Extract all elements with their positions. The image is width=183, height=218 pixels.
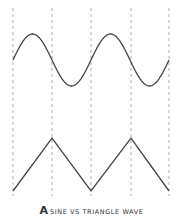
panel-letter: A: [39, 204, 48, 217]
wave-diagram: [0, 0, 183, 218]
figure: ASINE VS TRIANGLE WAVE: [0, 0, 183, 218]
figure-caption: ASINE VS TRIANGLE WAVE: [0, 199, 183, 218]
sine-wave: [13, 34, 169, 86]
caption-text: SINE VS TRIANGLE WAVE: [50, 208, 144, 216]
